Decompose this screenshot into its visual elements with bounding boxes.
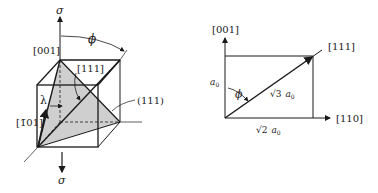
diagram-canvas: σ σ [001] ϕ [111] (111) λ [1̄01] [001] [… xyxy=(0,0,378,193)
section-figure xyxy=(225,38,330,118)
lambda-label: λ xyxy=(40,94,47,107)
dir-m101-label: [1̄01] xyxy=(16,117,43,128)
phi-label-right: ϕ xyxy=(235,88,243,101)
side-a0-label: a0 xyxy=(210,77,219,88)
phi-label: ϕ xyxy=(88,32,96,46)
base-length-label: √2a0 xyxy=(256,125,281,136)
diag-length-label: √3a0 xyxy=(270,89,295,100)
axis-110-label: [110] xyxy=(336,113,363,124)
sigma-bottom-label: σ xyxy=(58,174,66,187)
dir-111-label: [111] xyxy=(77,63,104,74)
right-labels: [001] [110] [111] a0 ϕ √3a0 √2a0 xyxy=(210,24,363,136)
dir-111-label-right: [111] xyxy=(328,41,355,52)
sigma-top-label: σ xyxy=(56,4,64,17)
plane-111-label: (111) xyxy=(137,95,164,106)
dir-001-label: [001] xyxy=(33,45,60,56)
axis-001-label: [001] xyxy=(212,24,239,35)
